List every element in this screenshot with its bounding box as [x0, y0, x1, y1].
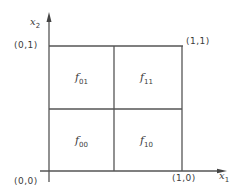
- x1-sub: 1: [225, 176, 229, 184]
- cell-sub: 11: [144, 78, 153, 86]
- cell-label-f00: f00: [75, 134, 88, 149]
- cell-sub: 01: [79, 78, 88, 86]
- corner-label-top-left: (0,1): [14, 40, 38, 50]
- corner-label-origin: (0,0): [14, 176, 38, 186]
- cell-label-f10: f10: [140, 134, 153, 149]
- x1-axis-label: x1: [219, 170, 229, 184]
- x2-axis-label: x2: [30, 16, 40, 30]
- x2-arrowhead-icon: [47, 12, 52, 22]
- corner-label-bottom-right: (1,0): [172, 173, 196, 183]
- cell-label-f01: f01: [75, 71, 88, 86]
- cell-sub: 10: [144, 141, 153, 149]
- cell-sub: 00: [79, 141, 88, 149]
- cell-label-f11: f11: [140, 71, 153, 86]
- corner-label-top-right: (1,1): [186, 36, 210, 46]
- x2-sub: 2: [36, 22, 40, 30]
